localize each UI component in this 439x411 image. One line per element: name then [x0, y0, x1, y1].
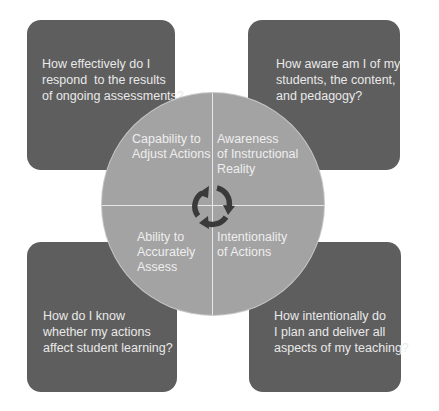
question-text: How do I know whether my actions affect …	[43, 308, 173, 356]
question-text: How aware am I of my students, the conte…	[276, 56, 400, 104]
central-circle: Capability to Adjust Actions Awareness o…	[102, 93, 324, 315]
quadrant-label-awareness: Awareness of Instructional Reality	[217, 132, 298, 177]
cycle-arrows-icon	[189, 181, 237, 229]
quadrant-label-adjust: Capability to Adjust Actions	[132, 132, 211, 162]
question-text: How intentionally do I plan and deliver …	[274, 308, 409, 356]
question-text: How effectively do I respond to the resu…	[42, 56, 184, 104]
quadrant-label-intentionality: Intentionality of Actions	[217, 230, 287, 260]
quadrant-label-assess: Ability to Accurately Assess	[137, 230, 195, 275]
